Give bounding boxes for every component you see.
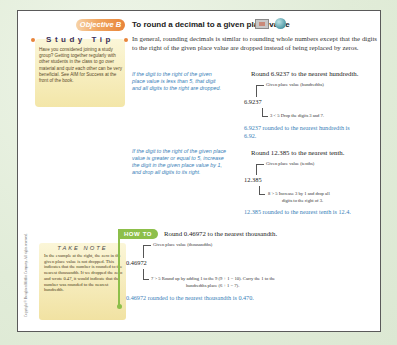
how-to-place-label: Given place value (thousandths)	[153, 242, 212, 248]
how-to-bar	[118, 231, 120, 306]
how-to-bracket-top	[143, 245, 144, 258]
example-2-place-label: Given place value (tenths)	[266, 161, 314, 167]
how-to-note-line1: 7 > 5 Round up by adding 1 to the 9 (9 +…	[151, 276, 275, 282]
study-tip-body: Have you considered joining a study grou…	[39, 47, 123, 84]
example-2-note-line2: digits to the right of 3.	[282, 198, 323, 204]
example-1-bracket-bottom	[262, 108, 263, 116]
example-2-bracket-bottom	[259, 186, 260, 194]
textbook-page: Objective B To round a decimal to a give…	[17, 10, 381, 332]
example-1-bracket-bottom-h	[262, 116, 268, 117]
example-1-heading: Round 6.9237 to the nearest hundredth.	[251, 69, 358, 78]
rule-greater-or-equal-5: If the digit to the right of the given p…	[132, 148, 228, 176]
example-1-note: 3 < 5 Drop the digits 3 and 7.	[270, 113, 324, 119]
take-note-body: In the example at the right, the zero in…	[44, 253, 124, 293]
example-1-bracket-top-h	[256, 85, 264, 86]
how-to-badge: HOW TO	[118, 229, 158, 239]
example-1-number: 6.9237	[244, 98, 262, 105]
how-to-number: 0.46972	[126, 259, 147, 266]
example-2-bracket-top	[256, 164, 257, 175]
example-2-number: 12.385	[244, 176, 262, 183]
example-1-place-label: Given place value (hundredths)	[266, 82, 324, 88]
example-2-heading: Round 12.385 to the nearest tenth.	[251, 148, 344, 157]
video-icon[interactable]	[255, 19, 269, 29]
copyright-notice: Copyright © Houghton Mifflin Company. Al…	[24, 217, 28, 317]
how-to-heading: Round 0.46972 to the nearest thousandth.	[164, 229, 277, 238]
example-1-result: 6.9237 rounded to the nearest hundredth …	[244, 124, 362, 139]
how-to-end-dot-icon	[117, 304, 122, 309]
example-2-result: 12.385 rounded to the nearest tenth is 1…	[244, 208, 356, 216]
how-to-bracket-bottom-h	[143, 279, 149, 280]
how-to-bracket-top-h	[143, 245, 151, 246]
example-2-bracket-bottom-h	[259, 194, 265, 195]
example-2-note-line1: 8 > 5 Increase 3 by 1 and drop all	[268, 191, 330, 197]
objective-badge: Objective B	[76, 19, 125, 31]
rule-less-than-5: If the digit to the right of the given p…	[132, 71, 224, 92]
example-1-bracket-top	[256, 85, 257, 97]
globe-icon[interactable]	[275, 18, 286, 29]
study-tip-title: Study Tip	[34, 35, 126, 44]
how-to-note-line2: hundredths place (6 + 1 = 7).	[186, 283, 239, 289]
intro-paragraph: In general, rounding decimals is similar…	[132, 35, 377, 52]
take-note-title: TAKE NOTE	[39, 245, 126, 251]
how-to-bracket-bottom	[143, 269, 144, 279]
example-2-bracket-top-h	[256, 164, 264, 165]
how-to-result: 0.46972 rounded to the nearest thousandt…	[126, 294, 366, 302]
